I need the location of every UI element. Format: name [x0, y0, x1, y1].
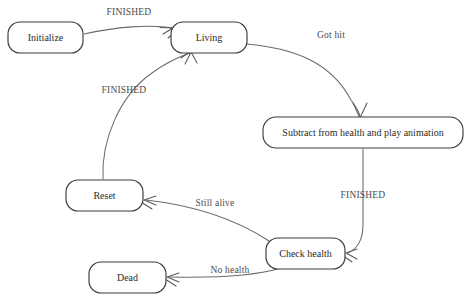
node-label-subtract: Subtract from health and play animation	[282, 127, 443, 138]
edge-subtract-to-check: FINISHED	[341, 149, 386, 262]
edge-path	[103, 53, 190, 179]
edge-check-to-reset: Still alive	[141, 196, 269, 241]
node-check-health[interactable]: Check health	[266, 238, 345, 269]
edge-living-to-subtract: Got hit	[247, 30, 367, 118]
node-living[interactable]: Living	[171, 22, 247, 53]
node-label-dead: Dead	[117, 272, 138, 283]
arrow-head-icon	[346, 249, 357, 259]
node-label-living: Living	[196, 32, 223, 43]
edge-label-got-hit: Got hit	[317, 30, 345, 40]
edge-path	[247, 44, 360, 116]
edge-label-finished-reset: FINISHED	[102, 85, 147, 95]
edge-initialize-to-living: FINISHED	[84, 7, 178, 38]
edge-reset-to-living: FINISHED	[102, 49, 197, 179]
edge-label-finished-init: FINISHED	[107, 7, 152, 17]
node-label-reset: Reset	[93, 190, 115, 201]
state-diagram-svg: FINISHED Got hit FINISHED Still alive	[0, 0, 469, 306]
node-reset[interactable]: Reset	[66, 180, 143, 211]
node-subtract-from-health[interactable]: Subtract from health and play animation	[263, 117, 463, 148]
node-label-initialize: Initialize	[28, 32, 64, 43]
node-initialize[interactable]: Initialize	[8, 22, 83, 53]
edge-label-no-health: No health	[211, 265, 250, 275]
node-label-check-health: Check health	[279, 248, 331, 259]
node-dead[interactable]: Dead	[89, 262, 166, 293]
edge-path	[348, 149, 363, 253]
edge-check-to-dead: No health	[165, 265, 281, 286]
state-diagram-canvas: FINISHED Got hit FINISHED Still alive	[0, 0, 469, 306]
edge-label-finished-subtract: FINISHED	[341, 190, 386, 200]
edge-label-still-alive: Still alive	[196, 198, 235, 208]
